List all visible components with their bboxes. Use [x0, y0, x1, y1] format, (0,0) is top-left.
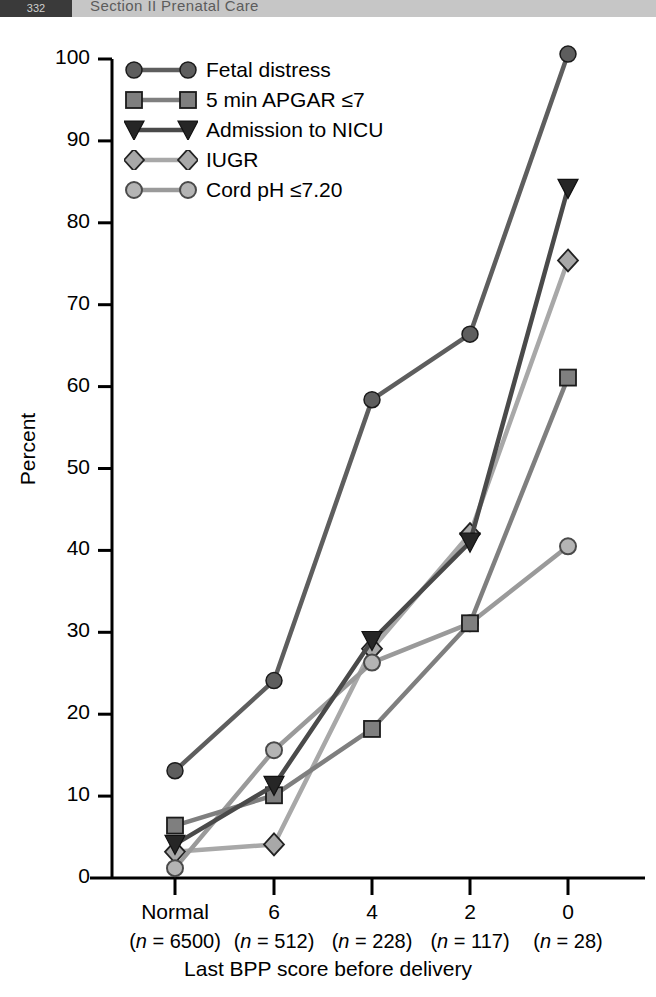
legend-swatch-circle-open-icon	[124, 180, 198, 200]
y-tick-label: 40	[67, 536, 90, 560]
y-tick-label: 60	[67, 373, 90, 397]
legend-swatch-triangle-down-icon	[124, 120, 198, 140]
y-tick-label: 50	[67, 455, 90, 479]
legend-label: Cord pH ≤7.20	[198, 178, 342, 202]
legend-label: Fetal distress	[198, 58, 331, 82]
legend-item-fetal-distress[interactable]: Fetal distress	[124, 55, 414, 85]
legend-item-admission-to-nicu[interactable]: Admission to NICU	[124, 115, 414, 145]
chart-legend: Fetal distress5 min APGAR ≤7Admission to…	[124, 55, 414, 205]
y-tick-label: 10	[67, 782, 90, 806]
legend-item-5-min-apgar-7[interactable]: 5 min APGAR ≤7	[124, 85, 414, 115]
y-tick-label: 100	[55, 45, 90, 69]
y-tick-label: 80	[67, 209, 90, 233]
series-5-min-apgar-7	[167, 370, 576, 834]
y-tick-label: 30	[67, 618, 90, 642]
legend-swatch-circle-icon	[124, 60, 198, 80]
y-tick-label: 20	[67, 700, 90, 724]
legend-swatch-square-icon	[124, 90, 198, 110]
series-iugr	[165, 249, 578, 862]
x-axis-ticks	[175, 878, 568, 895]
y-tick-label: 70	[67, 291, 90, 315]
y-axis-ticks	[90, 59, 112, 878]
running-title: Section II Prenatal Care	[90, 0, 259, 14]
line-chart-figure: Percent Last BPP score before delivery 0…	[0, 17, 656, 997]
legend-label: IUGR	[198, 148, 259, 172]
legend-item-cord-ph-7-20[interactable]: Cord pH ≤7.20	[124, 175, 414, 205]
x-category-label: 0	[498, 900, 638, 924]
y-tick-label: 0	[78, 864, 90, 888]
legend-label: Admission to NICU	[198, 118, 383, 142]
x-axis-title: Last BPP score before delivery	[0, 957, 656, 981]
page-folio: 332	[0, 0, 72, 17]
legend-swatch-diamond-icon	[124, 150, 198, 170]
legend-label: 5 min APGAR ≤7	[198, 88, 365, 112]
legend-item-iugr[interactable]: IUGR	[124, 145, 414, 175]
running-head: 332 Section II Prenatal Care	[0, 0, 656, 17]
x-sample-size-label: (n = 28)	[498, 930, 638, 953]
series-cord-ph-7-20	[167, 538, 576, 876]
y-tick-label: 90	[67, 127, 90, 151]
y-axis-title: Percent	[16, 389, 40, 509]
series-admission-to-nicu	[165, 179, 578, 854]
